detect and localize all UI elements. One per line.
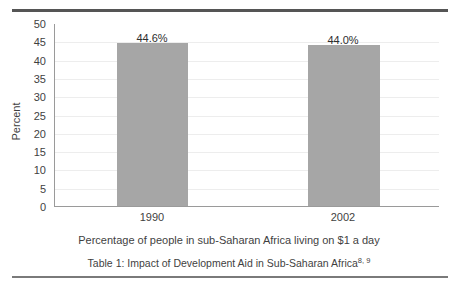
y-tick-label-20: 20 — [34, 128, 46, 139]
y-tick-label-15: 15 — [34, 147, 46, 158]
gridline-20 — [55, 134, 439, 135]
y-axis-title: Percent — [11, 82, 22, 162]
y-tick-label-25: 25 — [34, 110, 46, 121]
y-tick-label-40: 40 — [34, 55, 46, 66]
y-tick-label-45: 45 — [34, 37, 46, 48]
bar-2002[interactable] — [308, 45, 380, 206]
y-tick-label-0: 0 — [40, 202, 46, 213]
x-tick-label-1990: 1990 — [116, 212, 188, 223]
gridline-40 — [55, 61, 439, 62]
caption-superscript: 8, 9 — [358, 256, 371, 265]
y-tick-label-5: 5 — [40, 183, 46, 194]
bar-1990[interactable] — [117, 43, 188, 206]
y-tick-label-30: 30 — [34, 92, 46, 103]
plot-area — [54, 24, 439, 207]
figure-container: Percent 50 45 40 35 30 25 20 15 10 5 0 — [0, 0, 458, 287]
y-axis: Percent 50 45 40 35 30 25 20 15 10 5 0 — [0, 24, 54, 208]
bar-label-2002: 44.0% — [307, 35, 379, 46]
y-tick-label-50: 50 — [34, 19, 46, 30]
x-tick-label-2002: 2002 — [307, 212, 379, 223]
gridline-25 — [55, 116, 439, 117]
gridline-45 — [55, 42, 439, 43]
gridline-10 — [55, 170, 439, 171]
gridline-5 — [55, 189, 439, 190]
gridline-15 — [55, 152, 439, 153]
x-axis-title: Percentage of people in sub-Saharan Afri… — [0, 234, 458, 247]
gridline-35 — [55, 79, 439, 80]
caption-text: Table 1: Impact of Development Aid in Su… — [88, 257, 358, 269]
y-tick-label-35: 35 — [34, 73, 46, 84]
y-tick-label-10: 10 — [34, 165, 46, 176]
bottom-horizontal-rule — [12, 276, 448, 278]
gridline-30 — [55, 97, 439, 98]
bar-label-1990: 44.6% — [116, 33, 188, 44]
top-horizontal-rule — [12, 9, 448, 12]
table-caption: Table 1: Impact of Development Aid in Su… — [0, 257, 458, 270]
